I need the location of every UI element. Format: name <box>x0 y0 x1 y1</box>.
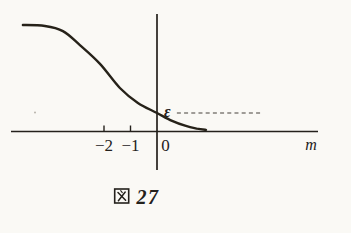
caption-number: 27 <box>136 186 160 208</box>
epsilon-label: ε <box>164 103 171 120</box>
x-axis-label: m <box>305 136 317 153</box>
function-curve <box>23 25 206 130</box>
x-tick-label: −2 <box>95 136 113 155</box>
figure-caption: 27 <box>115 186 160 208</box>
scan-speck <box>34 112 36 114</box>
x-tick-label: 0 <box>161 136 170 155</box>
plot-area: −2−10 ε m <box>11 14 318 170</box>
x-ticks: −2−10 <box>95 126 170 155</box>
kanji-zu-icon <box>115 189 129 203</box>
scanned-figure-page: −2−10 ε m 27 <box>0 0 351 233</box>
x-tick-label: −1 <box>121 136 139 155</box>
figure-svg: −2−10 ε m 27 <box>0 0 351 233</box>
